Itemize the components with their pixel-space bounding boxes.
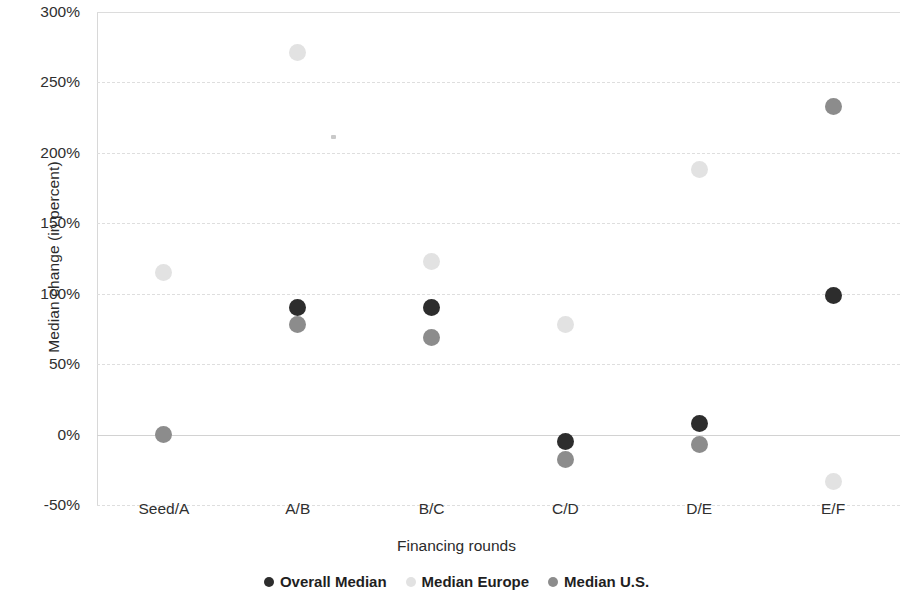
scan-artifact	[331, 135, 336, 139]
data-point	[691, 161, 708, 178]
y-axis-tick-label: 200%	[0, 144, 80, 162]
x-axis-tick-label: E/F	[773, 500, 893, 518]
x-axis-tick-label: B/C	[372, 500, 492, 518]
gridline	[97, 364, 900, 366]
legend-label: Median Europe	[422, 573, 530, 590]
data-point	[289, 299, 306, 316]
data-point	[691, 436, 708, 453]
gridline	[97, 82, 900, 84]
chart-legend: Overall MedianMedian EuropeMedian U.S.	[0, 573, 913, 590]
plot-area	[97, 12, 900, 505]
data-point	[289, 44, 306, 61]
legend-marker-icon	[264, 577, 274, 587]
gridline	[97, 294, 900, 296]
legend-marker-icon	[548, 577, 558, 587]
y-axis-tick-label: 150%	[0, 214, 80, 232]
data-point	[155, 264, 172, 281]
gridline	[97, 435, 900, 437]
data-point	[289, 316, 306, 333]
y-axis-tick-label: -50%	[0, 496, 80, 514]
data-point	[691, 415, 708, 432]
data-point	[423, 329, 440, 346]
y-axis-tick-labels: -50%0%50%100%150%200%250%300%	[0, 0, 90, 602]
scatter-chart: Median change (in percent) -50%0%50%100%…	[0, 0, 913, 602]
x-axis-tick-label: Seed/A	[104, 500, 224, 518]
legend-item[interactable]: Median U.S.	[548, 573, 649, 590]
data-point	[825, 473, 842, 490]
legend-label: Overall Median	[280, 573, 387, 590]
data-point	[557, 433, 574, 450]
gridline	[97, 153, 900, 155]
x-axis-title: Financing rounds	[0, 537, 913, 555]
gridline	[97, 223, 900, 225]
data-point	[423, 253, 440, 270]
x-axis-tick-label: C/D	[505, 500, 625, 518]
x-axis-tick-label: A/B	[238, 500, 358, 518]
legend-item[interactable]: Median Europe	[406, 573, 530, 590]
legend-label: Median U.S.	[564, 573, 649, 590]
x-axis-tick-label: D/E	[639, 500, 759, 518]
y-axis-line	[97, 12, 98, 505]
y-axis-tick-label: 100%	[0, 285, 80, 303]
legend-marker-icon	[406, 577, 416, 587]
data-point	[423, 299, 440, 316]
data-point	[825, 287, 842, 304]
y-axis-tick-label: 300%	[0, 3, 80, 21]
data-point	[155, 426, 172, 443]
legend-item[interactable]: Overall Median	[264, 573, 387, 590]
data-point	[557, 451, 574, 468]
y-axis-tick-label: 0%	[0, 426, 80, 444]
y-axis-tick-label: 50%	[0, 355, 80, 373]
gridline	[97, 12, 900, 14]
data-point	[825, 98, 842, 115]
y-axis-tick-label: 250%	[0, 73, 80, 91]
data-point	[557, 316, 574, 333]
